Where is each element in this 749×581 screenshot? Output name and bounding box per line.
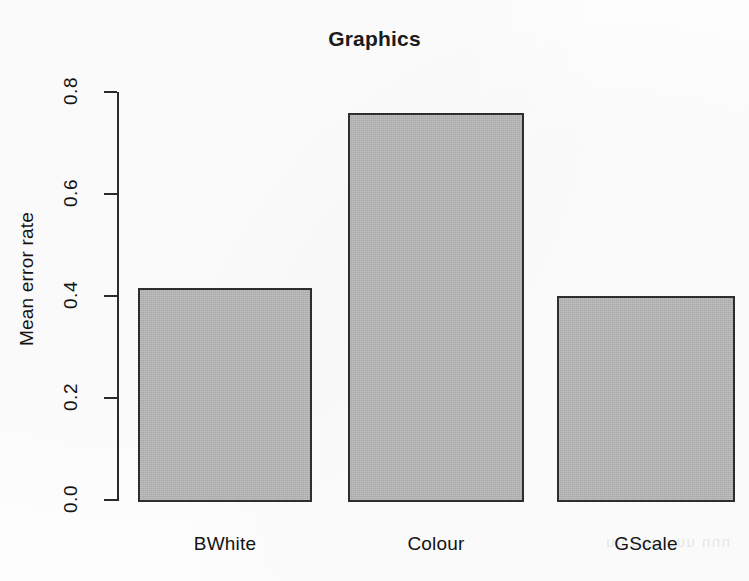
y-axis-tick [104, 193, 117, 195]
y-axis-line [117, 92, 119, 501]
y-axis-tick-label: 0.2 [60, 374, 82, 420]
y-axis-tick-label: 0.0 [60, 476, 82, 522]
y-axis-tick [104, 295, 117, 297]
y-axis-title: Mean error rate [16, 179, 38, 379]
plot-area: 0.00.20.40.60.8 Mean error rate BWhiteCo… [0, 0, 749, 581]
bar-colour [348, 113, 524, 502]
bar-chart-figure: nnn uuu uuu uu Graphics 0.00.20.40.60.8 … [0, 0, 749, 581]
y-axis-tick [104, 91, 117, 93]
x-axis-label-gscale: GScale [556, 533, 736, 555]
x-axis-label-colour: Colour [346, 533, 526, 555]
bar-gscale [557, 296, 735, 502]
y-axis-tick [104, 499, 117, 501]
y-axis-tick [104, 397, 117, 399]
y-axis-tick-label: 0.8 [60, 68, 82, 114]
bar-bwhite [138, 288, 312, 502]
y-axis-tick-label: 0.6 [60, 170, 82, 216]
y-axis-tick-label: 0.4 [60, 272, 82, 318]
x-axis-label-bwhite: BWhite [135, 533, 315, 555]
